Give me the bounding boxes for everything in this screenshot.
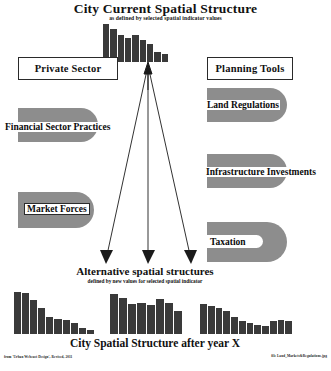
bar: [110, 294, 118, 334]
bar: [14, 292, 21, 334]
bar: [278, 320, 285, 334]
bar: [46, 317, 53, 334]
bar: [165, 303, 173, 334]
bar: [262, 326, 269, 334]
bar: [137, 303, 145, 334]
credit-source: from 'Urban Webcast Design', Revised, 20…: [4, 355, 72, 359]
bar: [22, 293, 29, 334]
bar: [147, 44, 153, 62]
land-regulations-label: Land Regulations: [206, 100, 280, 110]
diagram-canvas: City Current Spatial Structure as define…: [0, 0, 331, 371]
bar: [154, 52, 160, 62]
bar: [239, 321, 246, 334]
bar: [132, 35, 138, 62]
bar: [118, 35, 124, 62]
bar: [54, 319, 61, 334]
page-title: City Current Spatial Structure: [40, 2, 291, 16]
bar: [125, 38, 131, 62]
arrow-up-to-current: [144, 62, 152, 90]
category-planning-tools[interactable]: Planning Tools: [207, 57, 293, 80]
bar: [140, 40, 146, 62]
bar: [162, 54, 168, 62]
bar: [285, 321, 292, 334]
middle-subtitle: defined by new values for selected spati…: [40, 279, 250, 284]
bar: [200, 304, 207, 334]
bar: [128, 304, 136, 334]
financial-sector-practices-label: Financial Sector Practices: [4, 122, 111, 132]
bar: [30, 300, 37, 334]
bar: [119, 298, 127, 334]
bar: [247, 323, 254, 334]
bar: [63, 320, 70, 334]
bar: [231, 317, 238, 334]
category-private-sector[interactable]: Private Sector: [18, 57, 118, 80]
chart-alternative-b: [110, 292, 182, 334]
bar: [270, 321, 277, 334]
arrow-fan-lines: [107, 70, 190, 255]
bar: [208, 306, 215, 334]
infrastructure-investments-label: Infrastructure Investments: [205, 167, 317, 177]
bar: [254, 325, 261, 334]
chart-alternative-c: [200, 292, 292, 334]
bar: [216, 308, 223, 334]
taxation-label: Taxation: [209, 237, 247, 247]
bar: [38, 308, 45, 334]
bottom-title: City Spatial Structure after year X: [30, 338, 280, 350]
bar: [156, 299, 164, 334]
bar: [174, 311, 182, 334]
category-private-sector-label: Private Sector: [35, 63, 102, 74]
bar: [147, 305, 155, 334]
chart-alternative-a: [14, 292, 94, 334]
category-planning-tools-label: Planning Tools: [215, 63, 284, 74]
bar: [223, 311, 230, 334]
credit-filename: file Land_Markets&Regulations.jpg: [271, 354, 327, 358]
market-forces-label: Market Forces: [24, 203, 90, 215]
arrow-heads-down: [100, 250, 197, 264]
bar: [79, 328, 86, 334]
page-subtitle: as defined by selected spatial indicator…: [40, 16, 291, 22]
bar: [71, 323, 78, 334]
bar: [87, 330, 94, 334]
middle-title: Alternative spatial structures: [40, 266, 250, 277]
